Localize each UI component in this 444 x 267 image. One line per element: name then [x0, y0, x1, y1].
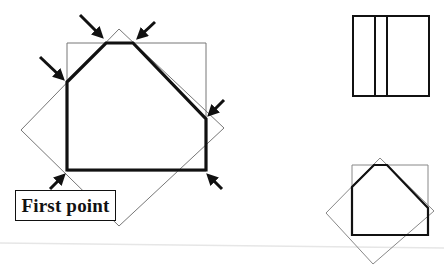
- arrow-icon: [211, 100, 224, 113]
- diagram-canvas: [0, 0, 444, 267]
- arrow-icon: [210, 177, 222, 189]
- intersection-polygon-small: [352, 165, 428, 235]
- intersection-polygon: [67, 43, 206, 170]
- split-rectangle: [353, 16, 429, 96]
- arrow-icon: [50, 177, 62, 189]
- first-point-text: First point: [21, 195, 109, 217]
- arrow-icon: [140, 22, 155, 36]
- first-point-label: First point: [15, 190, 116, 221]
- separator-line: [0, 243, 444, 248]
- top-right-figure: [353, 16, 429, 96]
- arrow-icon: [80, 15, 100, 35]
- arrow-icon: [40, 57, 61, 77]
